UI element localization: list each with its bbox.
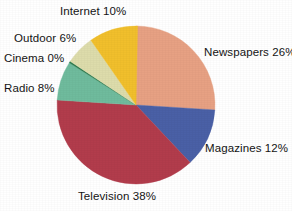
slice-label-radio: Radio 8% [4,82,55,95]
slice-label-television: Television 38% [78,190,156,203]
pie-slice-newspapers[interactable] [136,26,215,110]
slice-label-cinema: Cinema 0% [4,52,64,65]
pie-chart-figure: Internet 10% Outdoor 6% Cinema 0% Radio … [0,0,292,211]
slice-label-internet: Internet 10% [60,5,126,18]
slice-label-outdoor: Outdoor 6% [14,32,76,45]
slice-label-magazines: Magazines 12% [205,142,288,155]
pie-slice-group [57,26,215,184]
slice-label-newspapers: Newspapers 26% [204,46,292,59]
